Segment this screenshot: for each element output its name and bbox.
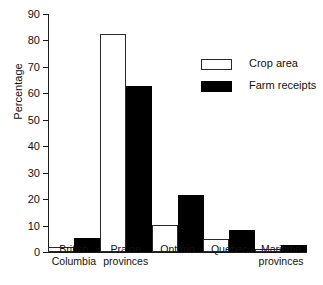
x-axis-category-label: Maritimeprovinces [231,243,323,267]
y-axis-tick-label: 60 [28,88,40,99]
y-axis-tick [43,226,48,227]
plot-area: 0102030405060708090 [48,14,307,253]
legend-label-farm-receipts: Farm receipts [249,79,316,92]
y-axis-line [48,14,49,253]
y-axis-tick [43,199,48,200]
y-axis-tick [43,93,48,94]
y-axis-tick [43,40,48,41]
y-axis-tick [43,173,48,174]
y-axis-tick [43,146,48,147]
bar-chart: Percentage 0102030405060708090 BritishCo… [0,0,323,285]
y-axis-title: Percentage [13,46,24,138]
bar-farm-receipts [126,86,152,252]
y-axis-tick [43,67,48,68]
bar-crop-area [100,34,126,252]
y-axis-tick-label: 90 [28,9,40,20]
legend-swatch-crop-area [201,59,232,70]
y-axis-tick-label: 30 [28,168,40,179]
y-axis-tick-label: 20 [28,194,40,205]
y-axis-tick-label: 40 [28,141,40,152]
y-axis-tick-label: 70 [28,62,40,73]
legend-swatch-farm-receipts [201,81,232,92]
y-axis-tick-label: 80 [28,35,40,46]
legend-label-crop-area: Crop area [249,57,298,70]
y-axis-tick-label: 10 [28,221,40,232]
y-axis-tick [43,14,48,15]
y-axis-tick-label: 50 [28,115,40,126]
y-axis-tick [43,120,48,121]
